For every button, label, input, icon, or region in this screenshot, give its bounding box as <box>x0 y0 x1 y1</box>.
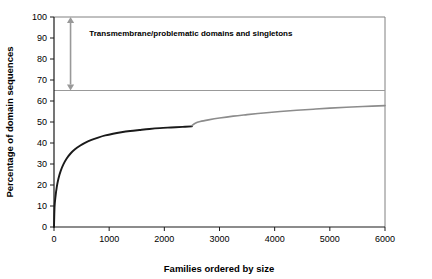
y-tick-label: 80 <box>37 54 47 64</box>
y-axis-title: Percentage of domain sequences <box>4 47 15 198</box>
y-tick-label: 90 <box>37 33 47 43</box>
x-tick-label: 3000 <box>209 234 229 244</box>
y-tick-label: 40 <box>37 138 47 148</box>
transmembrane-annotation-label: Transmembrane/problematic domains and si… <box>89 29 293 38</box>
x-tick-label: 4000 <box>265 234 285 244</box>
percentage-domain-sequences-chart: 0102030405060708090100 01000200030004000… <box>0 0 432 279</box>
y-tick-label: 50 <box>37 117 47 127</box>
x-tick-label: 2000 <box>154 234 174 244</box>
y-tick-label: 0 <box>42 222 47 232</box>
x-tick-label: 1000 <box>99 234 119 244</box>
y-tick-label: 10 <box>37 201 47 211</box>
x-tick-label: 6000 <box>375 234 395 244</box>
chart-figure: 0102030405060708090100 01000200030004000… <box>0 0 432 279</box>
y-tick-label: 20 <box>37 180 47 190</box>
y-tick-label: 30 <box>37 159 47 169</box>
x-axis-title: Families ordered by size <box>164 263 274 274</box>
x-tick-label: 5000 <box>320 234 340 244</box>
y-tick-label: 70 <box>37 75 47 85</box>
y-tick-label: 60 <box>37 96 47 106</box>
y-tick-label: 100 <box>32 12 47 22</box>
x-tick-label: 0 <box>51 234 56 244</box>
